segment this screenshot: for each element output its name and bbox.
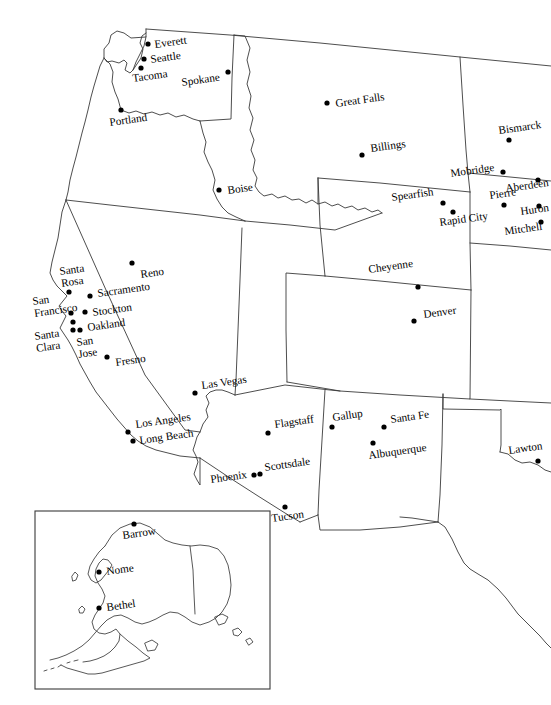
city-dot[interactable]: [118, 107, 123, 112]
city-label: Lawton: [508, 439, 544, 456]
border-texas-gulf: [400, 517, 438, 522]
city-label: SantaRosa: [59, 262, 87, 289]
city-dot[interactable]: [506, 137, 511, 142]
border-nv-az: [200, 390, 235, 432]
city-label: Cheyenne: [368, 257, 414, 275]
city-dot[interactable]: [96, 605, 101, 610]
city-marker[interactable]: Billings: [359, 137, 406, 157]
alaska-city-markers-layer: BarrowNomeBethel: [96, 521, 157, 613]
city-marker[interactable]: Portland: [109, 107, 149, 128]
coastline-oregon: [66, 58, 104, 200]
city-dot[interactable]: [225, 69, 230, 74]
city-label: Reno: [140, 265, 165, 280]
city-label: Bismarck: [498, 118, 543, 136]
city-dot[interactable]: [70, 327, 75, 332]
city-dot[interactable]: [257, 471, 262, 476]
city-dot[interactable]: [104, 354, 109, 359]
city-dot[interactable]: [77, 327, 82, 332]
city-marker[interactable]: SantaRosa: [59, 262, 87, 295]
city-marker[interactable]: Flagstaff: [265, 413, 314, 436]
city-label: Mobridge: [450, 161, 495, 179]
city-marker[interactable]: Sacramento: [87, 280, 151, 299]
city-marker[interactable]: Phoenix: [210, 468, 257, 485]
city-dot[interactable]: [141, 56, 146, 61]
alaska-peninsula: [61, 634, 150, 674]
city-marker[interactable]: SanJose: [76, 327, 98, 359]
city-marker[interactable]: Reno: [129, 260, 165, 280]
city-dot[interactable]: [500, 169, 505, 174]
city-dot[interactable]: [216, 187, 221, 192]
city-dot[interactable]: [70, 319, 75, 324]
city-marker[interactable]: Mobridge: [450, 161, 506, 179]
city-dot[interactable]: [359, 152, 364, 157]
city-label: Seattle: [150, 49, 182, 65]
city-dot[interactable]: [130, 438, 135, 443]
city-marker[interactable]: Stockton: [82, 301, 133, 318]
city-marker[interactable]: Everett: [145, 33, 188, 50]
city-marker[interactable]: Gallup: [329, 407, 363, 430]
city-dot[interactable]: [282, 504, 287, 509]
border-ut-wy-notch: [286, 273, 325, 382]
city-marker[interactable]: Bethel: [96, 597, 136, 613]
city-marker[interactable]: SantaClara: [34, 327, 76, 354]
city-label: Huron: [520, 201, 550, 217]
city-dot[interactable]: [192, 390, 197, 395]
city-marker[interactable]: Scottsdale: [257, 455, 310, 477]
city-dot[interactable]: [131, 521, 136, 526]
city-label: Fresno: [115, 352, 147, 368]
city-label: Barrow: [122, 524, 158, 541]
border-ok-tx: [500, 452, 551, 472]
city-marker[interactable]: Barrow: [122, 521, 158, 541]
city-label: Santa Fe: [390, 408, 430, 425]
city-label-line: Jose: [77, 345, 98, 360]
city-dot[interactable]: [129, 260, 134, 265]
city-label: Phoenix: [210, 468, 248, 485]
city-marker[interactable]: Las Vegas: [192, 373, 247, 396]
city-dot[interactable]: [370, 440, 375, 445]
city-marker[interactable]: Seattle: [141, 49, 181, 65]
city-marker[interactable]: Great Falls: [324, 90, 385, 109]
city-marker[interactable]: Boise: [216, 181, 253, 196]
city-label: SanJose: [76, 333, 98, 359]
city-label: Sacramento: [97, 280, 151, 299]
city-dot[interactable]: [415, 284, 420, 289]
city-dot[interactable]: [440, 200, 445, 205]
city-marker[interactable]: Denver: [411, 303, 457, 323]
city-marker[interactable]: Tacoma: [132, 65, 169, 84]
city-dot[interactable]: [96, 569, 101, 574]
city-dot[interactable]: [125, 429, 130, 434]
border-wy-id: [318, 178, 325, 276]
city-marker[interactable]: Spokane: [181, 69, 231, 88]
city-label: Las Vegas: [201, 373, 248, 391]
city-dot[interactable]: [265, 430, 270, 435]
city-marker[interactable]: Lawton: [508, 439, 544, 463]
city-dot[interactable]: [501, 202, 506, 207]
city-marker[interactable]: Mitchell: [504, 219, 544, 237]
city-dot[interactable]: [82, 309, 87, 314]
city-marker[interactable]: Santa Fe: [381, 408, 429, 430]
border-id-mt: [234, 35, 382, 213]
city-dot[interactable]: [66, 289, 71, 294]
city-marker[interactable]: Nome: [96, 561, 134, 577]
city-marker[interactable]: Albuquerque: [368, 440, 428, 461]
city-dot[interactable]: [145, 41, 150, 46]
city-dot[interactable]: [411, 318, 416, 323]
border-az-nm: [318, 390, 325, 515]
city-dot[interactable]: [381, 424, 386, 429]
city-marker[interactable]: Huron: [520, 201, 550, 217]
city-marker[interactable]: SanFrancisco: [32, 289, 79, 319]
alaska-kodiak: [145, 640, 158, 651]
border-ca-az: [193, 432, 200, 485]
city-marker[interactable]: Rapid City: [439, 209, 489, 228]
city-label: Portland: [109, 111, 149, 128]
city-dot[interactable]: [87, 293, 92, 298]
city-dot[interactable]: [324, 100, 329, 105]
city-dot[interactable]: [329, 424, 334, 429]
city-marker[interactable]: Pierre: [489, 185, 517, 207]
city-marker[interactable]: Bismarck: [498, 118, 543, 143]
city-label: Billings: [370, 137, 407, 154]
city-marker[interactable]: Spearfish: [391, 185, 446, 205]
city-label: Nome: [106, 561, 135, 577]
city-dot[interactable]: [535, 458, 540, 463]
city-dot[interactable]: [251, 472, 256, 477]
